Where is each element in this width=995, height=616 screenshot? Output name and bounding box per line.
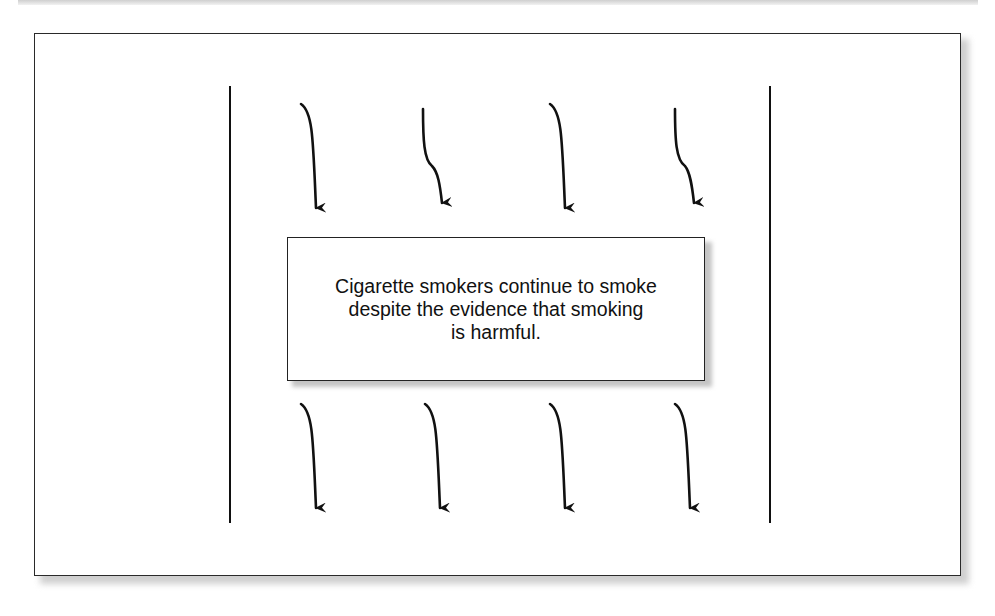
statement-line-1: Cigarette smokers continue to smoke — [296, 275, 696, 298]
arrow-down-icon — [301, 104, 316, 208]
arrow-down-icon — [675, 109, 694, 203]
arrow-down-icon — [425, 404, 440, 508]
statement-line-3: is harmful. — [296, 321, 696, 344]
arrow-down-icon — [423, 109, 442, 203]
arrow-down-icon — [301, 404, 316, 508]
statement-text: Cigarette smokers continue to smoke desp… — [296, 275, 696, 344]
statement-line-2: despite the evidence that smoking — [296, 298, 696, 321]
arrow-down-icon — [550, 104, 565, 208]
statement-box: Cigarette smokers continue to smoke desp… — [287, 237, 705, 381]
arrow-down-icon — [550, 404, 565, 508]
arrow-down-icon — [675, 404, 690, 508]
